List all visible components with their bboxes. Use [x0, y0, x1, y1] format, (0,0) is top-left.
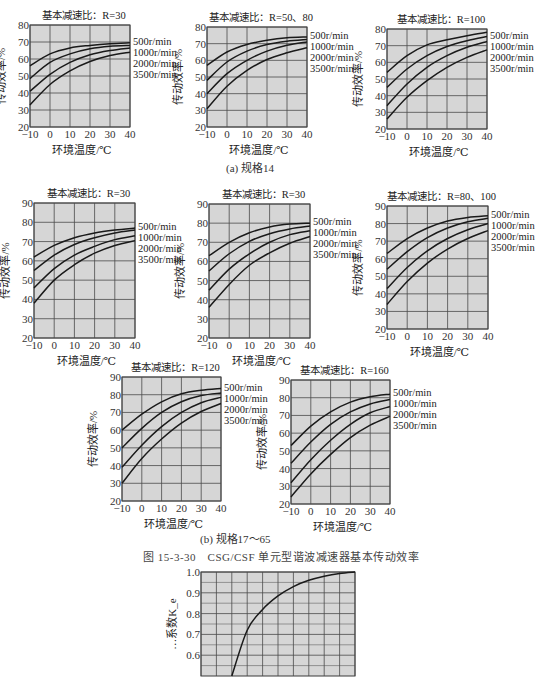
x-axis-label: 环境温度/℃ [229, 143, 288, 156]
svg-text:0: 0 [139, 502, 145, 514]
legend-entry: 3500r/min [491, 242, 535, 253]
svg-text:80: 80 [197, 217, 209, 229]
svg-text:−10: −10 [198, 128, 216, 140]
y-axis-label: 传动效率/% [351, 239, 364, 295]
svg-text:70: 70 [18, 36, 30, 48]
chart-c1: 0.60.70.80.91.0…系数K_e [161, 550, 425, 681]
svg-text:0: 0 [404, 330, 410, 342]
svg-text:70: 70 [195, 38, 207, 50]
legend-entry: 1000r/min [490, 41, 534, 52]
y-axis-label: 传动效率/% [171, 49, 184, 105]
svg-text:70: 70 [375, 235, 387, 247]
svg-text:0: 0 [47, 128, 53, 140]
svg-text:30: 30 [105, 128, 117, 140]
chart-title: 基本减速比：R=50、80 [209, 11, 313, 23]
legend: 500r/min1000r/min2000r/min3500r/min [491, 209, 535, 253]
y-tick-labels: 2030405060708090 [110, 371, 122, 507]
svg-text:10: 10 [422, 130, 434, 142]
legend-entry: 2000r/min [490, 52, 534, 63]
svg-text:70: 70 [375, 40, 387, 52]
svg-text:60: 60 [375, 56, 387, 68]
svg-text:40: 40 [375, 90, 387, 102]
y-axis-label: 传动效率/% [173, 243, 186, 299]
svg-text:30: 30 [365, 505, 377, 517]
svg-text:80: 80 [18, 19, 30, 31]
svg-text:40: 40 [375, 288, 387, 300]
svg-text:80: 80 [375, 23, 387, 35]
x-tick-labels: −10010203040 [198, 128, 313, 140]
svg-text:30: 30 [110, 477, 122, 489]
svg-text:60: 60 [110, 424, 122, 436]
svg-text:50: 50 [375, 270, 387, 282]
svg-text:30: 30 [195, 104, 207, 116]
svg-text:60: 60 [375, 253, 387, 265]
subfigure-caption-b: (b) 规格17～65 [200, 530, 271, 546]
svg-text:10: 10 [69, 339, 81, 351]
svg-text:10: 10 [65, 128, 77, 140]
y-tick-labels: 2030405060708090 [375, 200, 387, 335]
svg-text:90: 90 [279, 374, 291, 386]
svg-text:40: 40 [385, 505, 397, 517]
x-tick-labels: −10010203040 [200, 339, 316, 351]
svg-text:60: 60 [195, 54, 207, 66]
legend-entry: 500r/min [310, 30, 349, 41]
svg-text:30: 30 [284, 339, 296, 351]
y-tick-labels: 20304050607080 [18, 19, 30, 133]
svg-text:10: 10 [242, 128, 254, 140]
y-tick-labels: 2030405060708090 [197, 198, 209, 344]
svg-text:80: 80 [195, 21, 207, 33]
svg-text:0.7: 0.7 [186, 628, 200, 640]
y-axis-label: 传动效率/% [0, 242, 11, 298]
x-tick-labels: −10010203040 [282, 505, 396, 517]
svg-text:0: 0 [51, 339, 57, 351]
svg-text:70: 70 [22, 236, 34, 248]
svg-text:30: 30 [375, 106, 387, 118]
svg-text:0: 0 [224, 128, 230, 140]
svg-text:0: 0 [308, 505, 314, 517]
plot-area [34, 203, 135, 338]
svg-text:20: 20 [442, 130, 454, 142]
svg-text:20: 20 [264, 339, 276, 351]
svg-text:40: 40 [279, 463, 291, 475]
y-axis-label: 传动效率/% [0, 48, 7, 104]
y-tick-labels: 0.60.70.80.91.0 [186, 566, 200, 661]
svg-text:30: 30 [279, 480, 291, 492]
legend-entry: 500r/min [393, 387, 432, 398]
plot-area [122, 377, 221, 501]
svg-text:1.0: 1.0 [186, 566, 200, 578]
svg-text:60: 60 [197, 255, 209, 267]
svg-text:40: 40 [110, 460, 122, 472]
chart-b5: 2030405060708090−10010203040基本减速比：R=160环… [251, 358, 460, 548]
svg-text:40: 40 [483, 330, 495, 342]
svg-text:0: 0 [404, 130, 410, 142]
chart-title: 基本减速比：R=30 [222, 188, 305, 200]
legend-entry: 500r/min [490, 30, 529, 41]
legend-entry: 2000r/min [393, 409, 437, 420]
y-tick-labels: 2030405060708090 [279, 374, 291, 510]
chart-title: 基本减速比：R=80、100 [387, 190, 496, 202]
svg-text:20: 20 [345, 505, 357, 517]
chart-title: 基本减速比：R=30 [47, 187, 130, 199]
svg-text:0.9: 0.9 [186, 587, 200, 599]
svg-text:10: 10 [325, 505, 337, 517]
svg-text:40: 40 [305, 339, 317, 351]
svg-text:40: 40 [18, 87, 30, 99]
x-axis-label: 环境温度/℃ [410, 345, 469, 358]
svg-text:−10: −10 [200, 339, 218, 351]
svg-text:40: 40 [130, 339, 142, 351]
svg-text:−10: −10 [378, 330, 396, 342]
y-axis-label: 传动效率/% [255, 414, 268, 470]
svg-text:50: 50 [279, 445, 291, 457]
svg-text:40: 40 [195, 88, 207, 100]
x-tick-labels: −10010203040 [25, 339, 141, 351]
chart-a2: 20304050607080−10010203040基本减速比：R=50、80环… [167, 5, 377, 171]
svg-text:40: 40 [302, 128, 314, 140]
figure-caption: 图 15-3-30 CSG/CSF 单元型谐波减速器基本传动效率 [143, 548, 419, 564]
svg-text:0.6: 0.6 [186, 649, 200, 661]
svg-text:40: 40 [216, 502, 228, 514]
svg-text:−10: −10 [378, 130, 396, 142]
svg-text:10: 10 [244, 339, 256, 351]
legend-entry: 3500r/min [490, 63, 534, 74]
svg-text:50: 50 [375, 73, 387, 85]
plot-area [291, 380, 390, 504]
